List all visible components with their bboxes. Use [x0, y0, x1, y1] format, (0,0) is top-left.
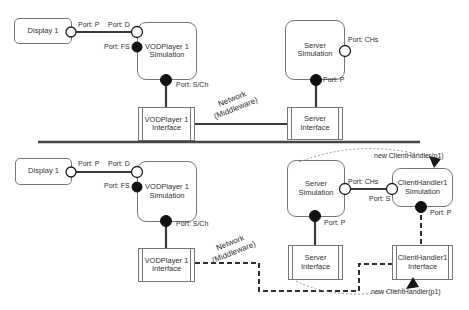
server-sim-label-line2: Simulation	[298, 189, 333, 198]
server-interface-box-top: Server Interface	[287, 107, 343, 140]
port-d-label-top: Port: D	[108, 21, 130, 29]
server-sim-label-line2: Simulation	[297, 50, 332, 59]
port-s-label: Port: S	[369, 195, 390, 203]
server-iface-label-line2: Interface	[300, 124, 329, 133]
port-chs-label-bottom: Port: CHs	[348, 178, 378, 186]
port-p-server-label-top: Port: P	[323, 76, 344, 84]
port-p-display-label-top: Port: P	[78, 21, 99, 29]
vod-iface-label-line2: Interface	[152, 265, 181, 274]
port-p-clienthandler-label: Port: P	[430, 209, 451, 217]
port-sch-label-bottom: Port: S/Ch	[176, 220, 208, 228]
display1-label: Display 1	[28, 27, 59, 36]
server-iface-label-line2: Interface	[301, 263, 330, 272]
server-simulation-box-top: Server Simulation	[285, 20, 345, 80]
vod-sim-label-line2: Simulation	[149, 192, 184, 201]
display1-box-top: Display 1	[14, 18, 72, 44]
diagram-canvas: Display 1 VODPlayer 1 Simulation Server …	[0, 0, 469, 310]
vod-iface-label-line2: Interface	[152, 124, 181, 133]
clienthandler1-simulation-box: ClientHandler1 Simulation	[392, 168, 453, 207]
port-fs-label-top: Port: FS	[104, 43, 130, 51]
vod-sim-label-line2: Simulation	[149, 51, 184, 60]
new-clienthandler-label-top: new ClientHandler(p1)	[374, 152, 444, 160]
port-chs-label-top: Port: CHs	[348, 36, 378, 44]
vodplayer-simulation-box-bottom: VODPlayer 1 Simulation	[137, 161, 197, 222]
clienthandler1-interface-box: ClientHandler1 Interface	[392, 245, 453, 280]
port-p-display-label-bottom: Port: P	[78, 160, 99, 168]
server-interface-box-bottom: Server Interface	[288, 245, 343, 280]
server-simulation-box-bottom: Server Simulation	[287, 160, 345, 217]
ch-iface-label-line2: Interface	[408, 263, 437, 272]
network-middleware-label-bottom: Network (Middleware)	[194, 225, 270, 270]
ch-sim-label-line2: Simulation	[405, 188, 440, 197]
vodplayer-interface-box-top: VODPlayer 1 Interface	[138, 107, 195, 141]
vodplayer-interface-box-bottom: VODPlayer 1 Interface	[138, 248, 195, 282]
display1-label: Display 1	[28, 167, 59, 176]
vodplayer-simulation-box-top: VODPlayer 1 Simulation	[137, 22, 197, 80]
port-sch-label-top: Port: S/Ch	[176, 81, 208, 89]
display1-box-bottom: Display 1	[15, 158, 72, 185]
port-d-label-bottom: Port: D	[108, 160, 130, 168]
new-clienthandler-label-bottom: new ClientHandler(p1)	[371, 288, 441, 296]
port-fs-label-bottom: Port: FS	[104, 182, 130, 190]
port-p-server-label-bottom: Port: P	[324, 219, 345, 227]
